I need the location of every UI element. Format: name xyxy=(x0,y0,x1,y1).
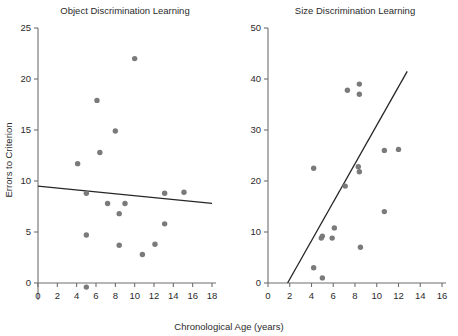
data-point-0-16 xyxy=(181,190,186,195)
data-point-0-7 xyxy=(113,128,118,133)
data-point-1-5 xyxy=(329,235,334,240)
data-point-1-15 xyxy=(382,148,387,153)
scatter-plot-figure: Object Discrimination Learning0510152025… xyxy=(0,0,458,336)
data-point-0-5 xyxy=(97,150,102,155)
panel-title-0: Object Discrimination Learning xyxy=(60,5,189,16)
data-point-0-4 xyxy=(94,98,99,103)
y-tick-label-1-5: 50 xyxy=(250,22,261,33)
panel-object-discrimination: Object Discrimination Learning0510152025… xyxy=(20,5,217,301)
data-point-1-10 xyxy=(357,169,362,174)
x-axis-title: Chronological Age (years) xyxy=(174,321,283,332)
data-point-1-3 xyxy=(320,275,325,280)
data-point-0-8 xyxy=(117,211,122,216)
data-point-1-16 xyxy=(396,147,401,152)
y-tick-label-1-4: 40 xyxy=(250,73,261,84)
x-tick-label-1-1: 2 xyxy=(287,290,292,301)
y-tick-label-0-5: 25 xyxy=(20,22,31,33)
x-tick-label-0-8: 16 xyxy=(187,290,198,301)
data-point-0-0 xyxy=(75,161,80,166)
x-tick-label-1-8: 16 xyxy=(437,290,448,301)
data-point-1-11 xyxy=(358,245,363,250)
x-tick-label-1-4: 8 xyxy=(352,290,357,301)
x-tick-label-1-5: 10 xyxy=(371,290,382,301)
panel-size-discrimination: Size Discrimination Learning010203040500… xyxy=(250,5,447,301)
y-tick-label-1-3: 30 xyxy=(250,124,261,135)
data-point-1-7 xyxy=(343,183,348,188)
y-tick-label-0-2: 10 xyxy=(20,175,31,186)
data-point-0-11 xyxy=(132,56,137,61)
data-point-1-4 xyxy=(320,233,325,238)
panel-title-1: Size Discrimination Learning xyxy=(295,5,415,16)
data-point-0-6 xyxy=(105,201,110,206)
y-tick-label-1-1: 10 xyxy=(250,226,261,237)
data-point-0-15 xyxy=(162,221,167,226)
y-tick-label-1-0: 0 xyxy=(256,277,261,288)
data-point-1-6 xyxy=(332,225,337,230)
x-tick-label-0-9: 18 xyxy=(207,290,218,301)
x-tick-label-0-0: 0 xyxy=(35,290,40,301)
data-point-0-14 xyxy=(162,191,167,196)
x-tick-label-1-3: 6 xyxy=(331,290,336,301)
y-tick-label-0-1: 5 xyxy=(26,226,31,237)
y-tick-label-1-2: 20 xyxy=(250,175,261,186)
data-point-0-13 xyxy=(152,242,157,247)
x-tick-label-0-5: 10 xyxy=(129,290,140,301)
x-tick-label-0-7: 14 xyxy=(168,290,179,301)
data-point-1-14 xyxy=(382,209,387,214)
regression-line-1 xyxy=(288,71,408,283)
y-tick-label-0-3: 15 xyxy=(20,124,31,135)
data-point-1-1 xyxy=(311,265,316,270)
data-point-0-2 xyxy=(84,232,89,237)
data-point-0-10 xyxy=(122,201,127,206)
y-tick-label-0-0: 0 xyxy=(26,277,31,288)
data-point-1-8 xyxy=(345,88,350,93)
data-point-0-9 xyxy=(117,243,122,248)
y-tick-label-0-4: 20 xyxy=(20,73,31,84)
data-point-1-13 xyxy=(357,92,362,97)
x-tick-label-0-6: 12 xyxy=(149,290,160,301)
x-tick-label-0-4: 8 xyxy=(113,290,118,301)
y-axis-title: Errors to Criterion xyxy=(3,123,14,198)
x-tick-label-1-2: 4 xyxy=(309,290,314,301)
data-point-0-3 xyxy=(84,284,89,289)
x-tick-label-1-6: 12 xyxy=(393,290,404,301)
figure-container: Object Discrimination Learning0510152025… xyxy=(0,0,458,336)
data-point-0-1 xyxy=(84,191,89,196)
x-tick-label-1-0: 0 xyxy=(265,290,270,301)
data-point-1-12 xyxy=(357,81,362,86)
data-point-1-0 xyxy=(311,166,316,171)
x-tick-label-0-2: 4 xyxy=(74,290,79,301)
data-point-0-12 xyxy=(140,252,145,257)
x-tick-label-0-1: 2 xyxy=(55,290,60,301)
x-tick-label-1-7: 14 xyxy=(415,290,426,301)
data-point-1-9 xyxy=(356,164,361,169)
x-tick-label-0-3: 6 xyxy=(93,290,98,301)
